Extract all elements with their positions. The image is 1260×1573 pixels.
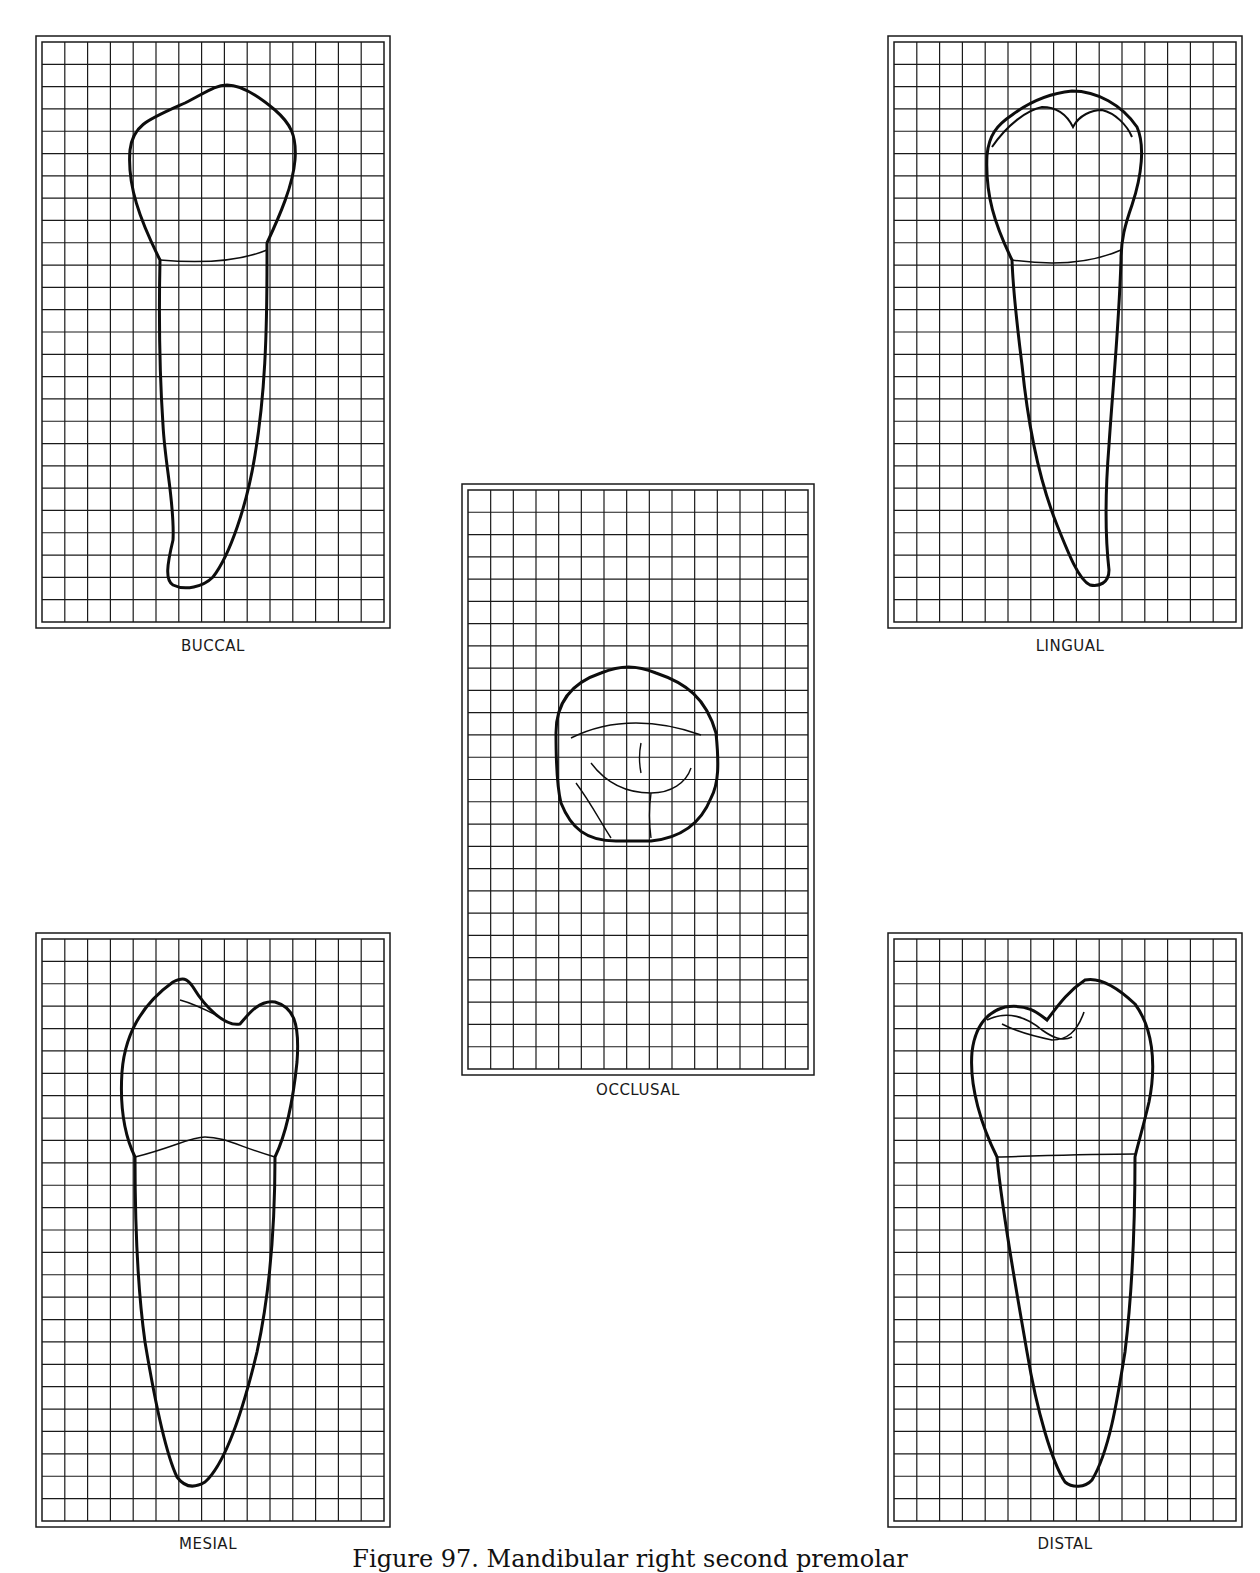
occlusal-view-panel [461, 483, 815, 1076]
mesial-tooth-outline [121, 979, 297, 1486]
cej-line [997, 1154, 1135, 1157]
occlusal-tooth-drawing [461, 483, 815, 1076]
buccal-view-panel [35, 35, 391, 629]
buccal-tooth-drawing [35, 35, 391, 629]
distal-tooth-drawing [887, 932, 1243, 1528]
figure-caption: Figure 97. Mandibular right second premo… [0, 1545, 1260, 1573]
mesial-view-panel [35, 932, 391, 1528]
distal-view-panel [887, 932, 1243, 1528]
grid [888, 36, 1242, 628]
cej-line [160, 250, 267, 262]
marginal-ridge [180, 1000, 220, 1017]
grid [888, 933, 1242, 1527]
distal-tooth-outline [972, 979, 1153, 1486]
lingual-label: LINGUAL [970, 637, 1170, 655]
cej-line [1012, 250, 1121, 263]
lingual-view-panel [887, 35, 1243, 629]
lingual-tooth-outline [987, 91, 1142, 585]
mesial-tooth-drawing [35, 932, 391, 1528]
grid [462, 484, 814, 1075]
central-fossa [571, 723, 701, 838]
marginal-ridge [987, 1012, 1084, 1040]
lingual-tooth-drawing [887, 35, 1243, 629]
occlusal-tooth-outline [556, 667, 718, 841]
buccal-label: BUCCAL [113, 637, 313, 655]
grid [36, 933, 390, 1527]
occlusal-label: OCCLUSAL [538, 1081, 738, 1099]
grid [36, 36, 390, 628]
